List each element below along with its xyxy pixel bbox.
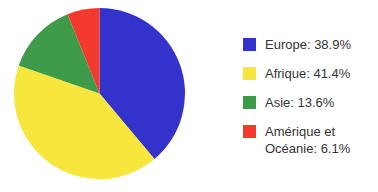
legend-swatch-icon [243,67,256,80]
pie-chart-graphic [14,8,185,179]
legend-item-label: Asie: 13.6% [265,94,334,111]
legend-item-label: Europe: 38.9% [265,36,351,53]
legend-item[interactable]: Europe: 38.9% [243,36,378,53]
pie-svg [14,8,185,179]
pie-chart-figure: Europe: 38.9%Afrique: 41.4%Asie: 13.6%Am… [0,0,378,192]
legend-swatch-icon [243,125,256,138]
legend-swatch-icon [243,96,256,109]
legend-item-label: Amérique et Océanie: 6.1% [265,123,350,157]
chart-legend: Europe: 38.9%Afrique: 41.4%Asie: 13.6%Am… [243,36,378,157]
legend-swatch-icon [243,38,256,51]
legend-item[interactable]: Amérique et Océanie: 6.1% [243,123,378,157]
legend-item[interactable]: Asie: 13.6% [243,94,378,111]
legend-item-label: Afrique: 41.4% [265,65,350,82]
legend-item[interactable]: Afrique: 41.4% [243,65,378,82]
pie-slice-group [14,8,185,179]
